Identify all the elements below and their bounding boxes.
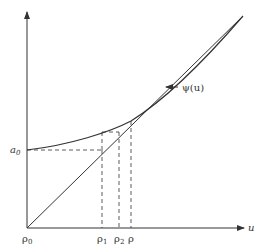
tick-rho1: ρ1 — [97, 233, 107, 246]
tick-rho2: ρ2 — [114, 233, 124, 246]
u-axis-label: u — [248, 222, 254, 233]
diagonal-line — [27, 16, 243, 228]
psi-label: ψ(u) — [182, 82, 204, 93]
diagram-canvas: ψ(u) a0 u ρ0 ρ1 ρ2 ρ — [0, 0, 263, 251]
dashed-construction-lines — [27, 121, 131, 228]
tick-rho: ρ — [128, 233, 134, 244]
psi-curve — [27, 16, 243, 150]
tick-rho0: ρ0 — [22, 233, 32, 246]
a0-label: a0 — [10, 144, 21, 157]
